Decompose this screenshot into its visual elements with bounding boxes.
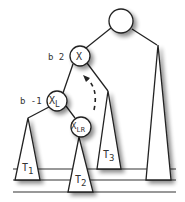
edge-root-x bbox=[86, 28, 111, 48]
arrowhead-icon bbox=[83, 75, 90, 82]
edge-xl-xlr bbox=[66, 106, 75, 118]
subtree-right bbox=[146, 45, 171, 180]
edge-root-right bbox=[132, 29, 157, 45]
edge-x-t3 bbox=[87, 63, 108, 91]
dashed-arrow-path bbox=[86, 78, 95, 110]
balance-label-x: b 2 bbox=[48, 52, 64, 62]
edge-x-xl bbox=[63, 64, 73, 93]
subtrees bbox=[15, 45, 171, 192]
node-x-label: X bbox=[76, 51, 82, 62]
edge-xl-t1 bbox=[28, 107, 49, 118]
node-root bbox=[109, 9, 133, 33]
rotation-arrow bbox=[83, 75, 95, 110]
balance-label-xl: b -1 bbox=[20, 96, 42, 106]
nodes bbox=[47, 9, 133, 137]
avl-rotation-diagram: X XL XLR b 2 b -1 T1 T2 T3 bbox=[0, 0, 185, 202]
diagram-svg: X XL XLR b 2 b -1 T1 T2 T3 bbox=[0, 0, 185, 202]
